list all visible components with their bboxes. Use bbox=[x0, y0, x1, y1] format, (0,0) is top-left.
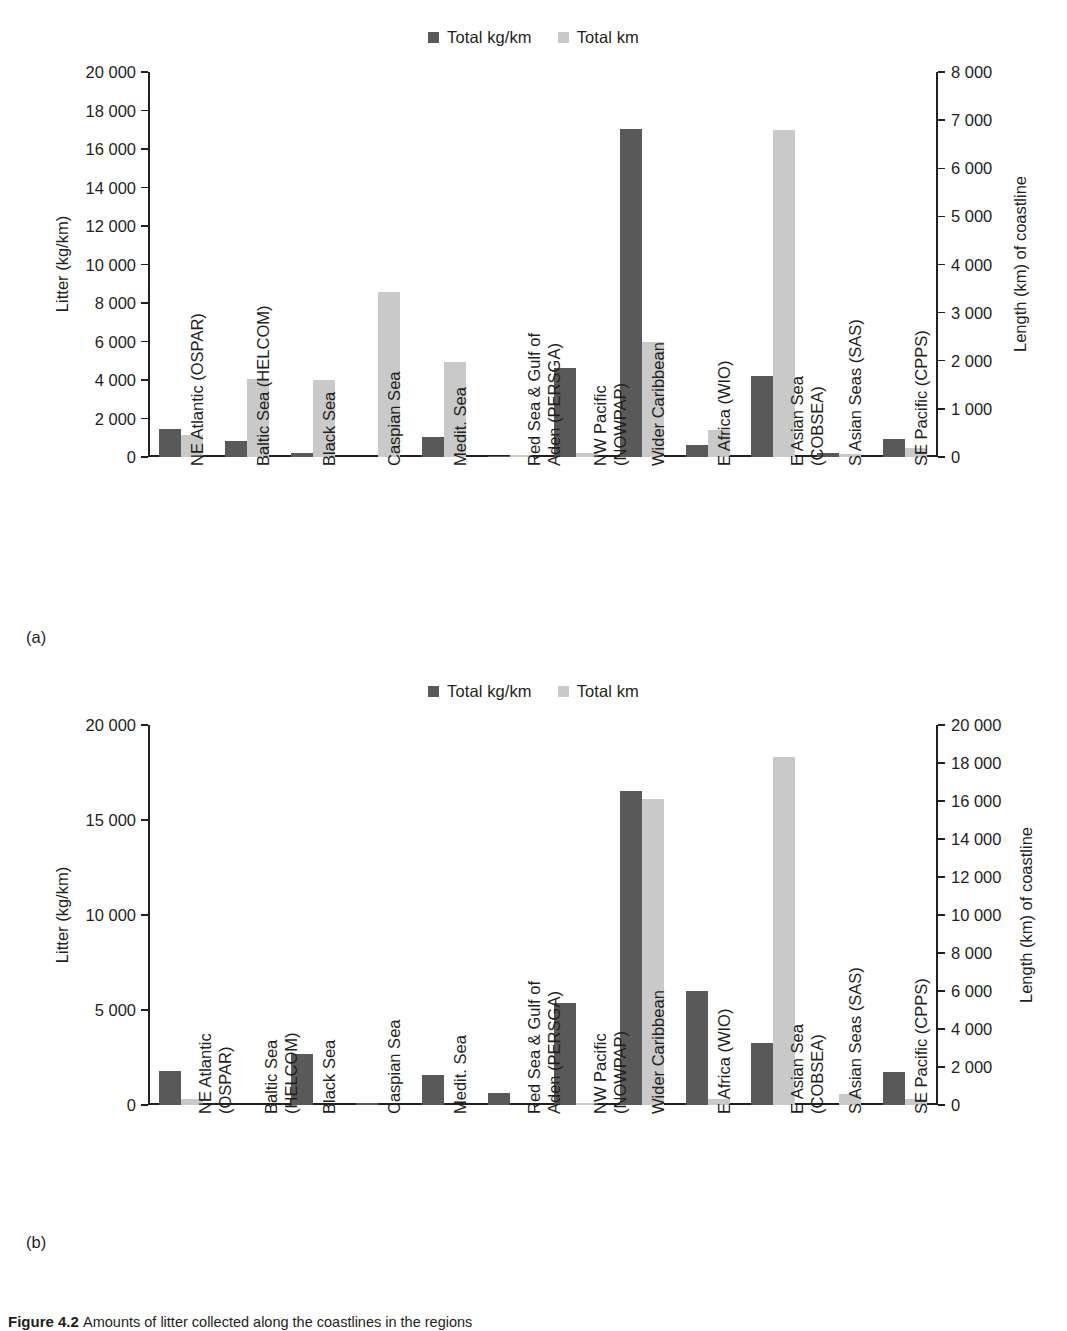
bar-total-kgkm bbox=[291, 453, 313, 457]
category-label-line: E Africa (WIO) bbox=[715, 1009, 733, 1114]
y2-axis-tick-label: 0 bbox=[951, 449, 960, 466]
category-label-line: S Asian Seas (SAS) bbox=[846, 319, 864, 466]
x-axis-category-label: Medit. Sea bbox=[450, 387, 470, 466]
chart-panel-b: Total kg/km Total km 05 00010 00015 0002… bbox=[0, 660, 1067, 1280]
y-axis-tick-label: 4 000 bbox=[95, 372, 136, 389]
y2-axis-tick-label: 8 000 bbox=[951, 64, 992, 81]
y2-axis-tick-label: 2 000 bbox=[951, 1059, 992, 1076]
category-label-line: (OSPAR) bbox=[215, 1033, 235, 1114]
y-axis-left-title-b: Litter (kg/km) bbox=[53, 867, 72, 963]
x-axis-category-label: Caspian Sea bbox=[384, 1020, 404, 1114]
legend-label: Total kg/km bbox=[447, 28, 532, 47]
category-label-line: Medit. Sea bbox=[451, 387, 469, 466]
legend-label: Total kg/km bbox=[447, 682, 532, 701]
legend-swatch-icon bbox=[428, 686, 439, 697]
category-label-line: NE Atlantic bbox=[196, 1033, 214, 1114]
y2-axis-tick-label: 18 000 bbox=[951, 755, 1001, 772]
figure-caption-text: Amounts of litter collected along the co… bbox=[83, 1314, 472, 1330]
y2-axis-tick bbox=[938, 360, 945, 361]
y-axis-tick-label: 5 000 bbox=[95, 1002, 136, 1019]
x-axis-category-label: Wider Caribbean bbox=[648, 342, 668, 466]
y2-axis-tick-label: 12 000 bbox=[951, 869, 1001, 886]
y2-axis-tick-label: 2 000 bbox=[951, 353, 992, 370]
y2-axis-tick-label: 7 000 bbox=[951, 112, 992, 129]
x-axis-category-label: E Africa (WIO) bbox=[714, 361, 734, 466]
bar-total-kgkm bbox=[356, 1103, 378, 1105]
category-label-line: NW Pacific bbox=[591, 385, 609, 466]
y-axis-tick bbox=[141, 1009, 148, 1010]
category-label-line: (HELCOM) bbox=[281, 1032, 301, 1114]
x-axis-category-label: Red Sea & Gulf ofAden (PERSGA) bbox=[524, 981, 564, 1114]
y2-axis-tick bbox=[938, 1104, 945, 1105]
legend-entry-total-kgkm: Total kg/km bbox=[428, 682, 532, 701]
legend-entry-total-kgkm: Total kg/km bbox=[428, 28, 532, 47]
x-axis-category-label: Black Sea bbox=[319, 392, 339, 466]
y2-axis-tick bbox=[938, 914, 945, 915]
category-label-line: Red Sea & Gulf of bbox=[525, 333, 543, 466]
bar-total-kgkm bbox=[488, 1093, 510, 1105]
x-axis-category-label: E Asian Sea(COBSEA) bbox=[787, 376, 827, 466]
bar-total-kgkm bbox=[422, 1075, 444, 1105]
y-axis-tick-label: 12 000 bbox=[86, 218, 136, 235]
category-label-line: Wider Caribbean bbox=[649, 990, 667, 1114]
chart-panel-a: Total kg/km Total km 02 0004 0006 0008 0… bbox=[0, 0, 1067, 660]
legend-entry-total-km: Total km bbox=[558, 28, 639, 47]
category-label-line: E Asian Sea bbox=[788, 1024, 806, 1114]
category-label-line: NE Atlantic (OSPAR) bbox=[188, 313, 206, 466]
category-label-line: S Asian Seas (SAS) bbox=[846, 967, 864, 1114]
legend-panel-b: Total kg/km Total km bbox=[0, 682, 1067, 701]
category-label-line: Red Sea & Gulf of bbox=[525, 981, 543, 1114]
category-label-line: E Asian Sea bbox=[788, 376, 806, 466]
bar-total-kgkm bbox=[488, 456, 510, 457]
y-axis-left-title-a: Litter (kg/km) bbox=[53, 216, 72, 312]
bar-total-kgkm bbox=[686, 991, 708, 1105]
y-axis-tick bbox=[141, 264, 148, 265]
y-axis-tick-label: 18 000 bbox=[86, 102, 136, 119]
y-axis-tick-label: 0 bbox=[127, 449, 136, 466]
x-axis-category-label: Black Sea bbox=[319, 1040, 339, 1114]
y-axis-tick bbox=[141, 819, 148, 820]
y-axis-tick-label: 16 000 bbox=[86, 141, 136, 158]
x-axis-category-label: Baltic Sea (HELCOM) bbox=[253, 306, 273, 466]
y2-axis-tick bbox=[938, 408, 945, 409]
y-axis-tick-label: 15 000 bbox=[86, 812, 136, 829]
y2-axis-tick-label: 10 000 bbox=[951, 907, 1001, 924]
y-axis-tick bbox=[141, 341, 148, 342]
x-axis-category-label: Red Sea & Gulf ofAden (PERSGA) bbox=[524, 333, 564, 466]
category-label-line: Caspian Sea bbox=[385, 372, 403, 466]
figure-caption: Figure 4.2 Amounts of litter collected a… bbox=[8, 1312, 1058, 1331]
category-label-line: Baltic Sea (HELCOM) bbox=[254, 306, 272, 466]
y-axis-right-title-a: Length (km) of coastline bbox=[1011, 176, 1030, 352]
y2-axis-tick-label: 8 000 bbox=[951, 945, 992, 962]
y2-axis-tick bbox=[938, 264, 945, 265]
figure-4-2: Total kg/km Total km 02 0004 0006 0008 0… bbox=[0, 0, 1067, 1331]
category-label-line: (NOWPAP) bbox=[610, 383, 630, 466]
x-axis-category-label: E Africa (WIO) bbox=[714, 1009, 734, 1114]
legend-entry-total-km: Total km bbox=[558, 682, 639, 701]
y-axis-tick-label: 0 bbox=[127, 1097, 136, 1114]
y2-axis-tick-label: 16 000 bbox=[951, 793, 1001, 810]
category-label-line: Black Sea bbox=[320, 1040, 338, 1114]
y-axis-tick bbox=[141, 914, 148, 915]
category-label-line: E Africa (WIO) bbox=[715, 361, 733, 466]
category-label-line: Baltic Sea bbox=[262, 1040, 280, 1114]
legend-swatch-icon bbox=[558, 32, 569, 43]
x-axis-category-label: NE Atlantic (OSPAR) bbox=[187, 313, 207, 466]
x-axis-category-label: NE Atlantic(OSPAR) bbox=[195, 1033, 235, 1114]
legend-label: Total km bbox=[577, 28, 639, 47]
y2-axis-tick bbox=[938, 876, 945, 877]
y-axis-tick bbox=[141, 456, 148, 457]
y2-axis-tick-label: 0 bbox=[951, 1097, 960, 1114]
bar-total-kgkm bbox=[686, 445, 708, 457]
y-axis-tick-label: 8 000 bbox=[95, 295, 136, 312]
y2-axis-tick bbox=[938, 216, 945, 217]
y2-axis-tick bbox=[938, 990, 945, 991]
category-label-line: (COBSEA) bbox=[808, 1024, 828, 1114]
y2-axis-tick-label: 14 000 bbox=[951, 831, 1001, 848]
bar-total-kgkm bbox=[225, 441, 247, 457]
y2-axis-tick bbox=[938, 71, 945, 72]
category-label-line: Aden (PERSGA) bbox=[544, 981, 564, 1114]
y2-axis-tick-label: 4 000 bbox=[951, 256, 992, 273]
x-axis-category-label: SE Pacific (CPPS) bbox=[911, 978, 931, 1114]
x-axis-category-label: SE Pacific (CPPS) bbox=[911, 330, 931, 466]
